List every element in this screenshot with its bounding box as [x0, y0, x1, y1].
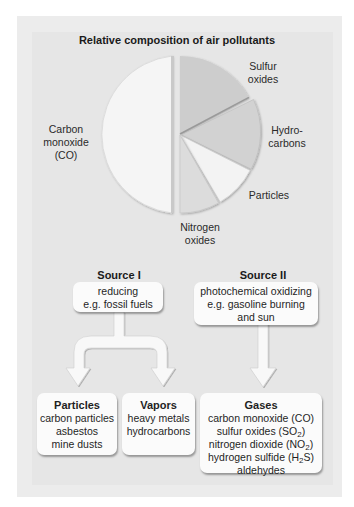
- label-line: oxides: [175, 234, 225, 247]
- box-line: mine dusts: [37, 438, 117, 451]
- box-line: reducing: [73, 285, 163, 298]
- box-line: e.g. gasoline burning: [194, 298, 318, 311]
- source2-title: Source II: [228, 269, 298, 281]
- label-line: Carbon: [38, 123, 94, 136]
- particles-box: Particles carbon particles asbestos mine…: [37, 393, 117, 455]
- label-line: carbons: [262, 137, 312, 150]
- label-carbon-monoxide: Carbon monoxide (CO): [38, 123, 94, 162]
- box-line: photochemical oxidizing: [194, 285, 318, 298]
- box-line: sulfur oxides (SO2): [200, 425, 322, 438]
- source1-box: reducing e.g. fossil fuels: [73, 282, 163, 312]
- label-hydrocarbons: Hydro- carbons: [262, 124, 312, 150]
- box-line: carbon monoxide (CO): [200, 412, 322, 425]
- box-line: heavy metals: [122, 412, 195, 425]
- box-heading: Gases: [200, 399, 322, 412]
- source2-box: photochemical oxidizing e.g. gasoline bu…: [194, 282, 318, 325]
- label-particles: Particles: [244, 189, 294, 202]
- box-line: carbon particles: [37, 412, 117, 425]
- source1-title: Source I: [84, 269, 154, 281]
- box-line: and sun: [194, 311, 318, 324]
- box-heading: Vapors: [122, 399, 195, 412]
- vapors-box: Vapors heavy metals hydrocarbons: [122, 393, 195, 455]
- label-line: Hydro-: [262, 124, 312, 137]
- box-heading: Particles: [37, 399, 117, 412]
- box-line: hydrocarbons: [122, 425, 195, 438]
- slice-carbon-monoxide: [102, 56, 172, 213]
- box-line: asbestos: [37, 425, 117, 438]
- label-line: (CO): [38, 149, 94, 162]
- label-line: monoxide: [38, 136, 94, 149]
- label-line: Particles: [244, 189, 294, 202]
- gases-box: Gases carbon monoxide (CO) sulfur oxides…: [200, 393, 322, 473]
- box-line: nitrogen dioxide (NO2): [200, 438, 322, 451]
- label-line: Sulfur: [238, 60, 288, 73]
- label-nitrogen-oxides: Nitrogen oxides: [175, 221, 225, 247]
- box-line: hydrogen sulfide (H2S): [200, 451, 322, 464]
- box-line: aldehydes: [200, 464, 322, 477]
- label-line: oxides: [238, 73, 288, 86]
- label-sulfur-oxides: Sulfur oxides: [238, 60, 288, 86]
- box-line: e.g. fossil fuels: [73, 298, 163, 311]
- label-line: Nitrogen: [175, 221, 225, 234]
